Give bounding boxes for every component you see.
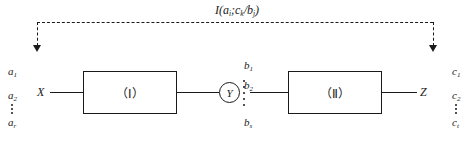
output-symbol-last-sub: t <box>457 122 459 130</box>
mi-subscript-k: k <box>240 9 243 18</box>
output-terminal-label: Z <box>420 86 427 98</box>
dashed-span-right-vertical <box>433 22 434 46</box>
block-two: （Ⅱ） <box>288 71 382 114</box>
input-alphabet-stack: a1 a2 ar <box>8 66 17 128</box>
input-symbol-2-base: a <box>8 89 14 101</box>
input-symbol-last-sub: r <box>14 122 17 130</box>
middle-symbol-1: b1 <box>244 60 253 71</box>
arrowhead-right-icon <box>429 45 437 52</box>
input-symbol-last: ar <box>8 117 16 128</box>
mutual-information-label: I(ai;ck/bj) <box>0 3 474 18</box>
output-symbol-2-sub: 2 <box>457 95 461 103</box>
input-symbol-2: a2 <box>8 90 17 101</box>
block-one-label: （Ⅰ） <box>116 84 144 102</box>
middle-symbol-2: b2 <box>244 80 253 91</box>
middle-symbol-1-sub: 1 <box>250 65 254 73</box>
block-two-label: （Ⅱ） <box>320 84 350 102</box>
wire-node-y-to-block-two <box>250 92 288 93</box>
middle-symbol-1-base: b <box>244 59 250 71</box>
channel-cascade-diagram: I(ai;ck/bj) a1 a2 ar X （Ⅰ） Y b1 b2 bs <box>0 0 474 146</box>
middle-symbol-last-base: b <box>244 116 250 128</box>
node-y: Y <box>219 82 240 103</box>
mi-subscript-j: j <box>253 9 255 18</box>
mi-subscript-i: i <box>229 9 231 18</box>
wire-block-two-to-output <box>382 92 417 93</box>
input-symbol-last-base: a <box>8 116 14 128</box>
dashed-span-left-vertical <box>37 22 38 46</box>
output-symbol-1: c1 <box>452 66 460 77</box>
output-symbol-2: c2 <box>452 90 460 101</box>
input-terminal-label: X <box>37 86 44 98</box>
output-symbol-last: ct <box>452 117 459 128</box>
mi-mid: ;c <box>231 3 240 17</box>
input-symbol-1-sub: 1 <box>14 71 18 79</box>
input-symbol-1: a1 <box>8 66 17 77</box>
mi-suffix: ) <box>255 3 259 17</box>
middle-symbol-last-sub: s <box>250 122 253 130</box>
output-alphabet-stack: c1 c2 ct <box>452 66 460 128</box>
wire-block-one-to-node-y <box>177 92 219 93</box>
node-y-label: Y <box>226 87 232 99</box>
arrowhead-left-icon <box>33 45 41 52</box>
dashed-span-horizontal <box>37 22 433 23</box>
output-vertical-ellipsis-icon <box>452 101 459 117</box>
input-symbol-2-sub: 2 <box>14 95 18 103</box>
block-one: （Ⅰ） <box>83 71 177 114</box>
mi-prefix: I(a <box>215 3 229 17</box>
mi-divider: /b <box>244 3 253 17</box>
middle-symbol-2-base: b <box>244 79 250 91</box>
middle-symbol-last: bs <box>244 117 252 128</box>
input-symbol-1-base: a <box>8 65 14 77</box>
output-symbol-1-sub: 1 <box>457 71 461 79</box>
wire-input-to-block-one <box>50 92 83 93</box>
input-vertical-ellipsis-icon <box>8 101 15 117</box>
middle-alphabet-stack: b1 b2 bs <box>244 60 253 128</box>
